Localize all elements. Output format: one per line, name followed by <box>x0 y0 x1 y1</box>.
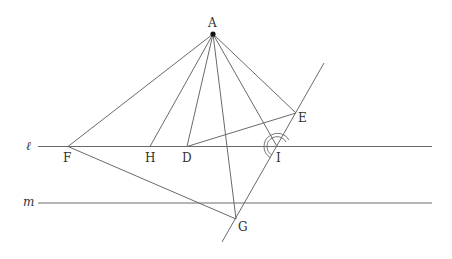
transversal-line <box>222 63 324 242</box>
label-H: H <box>145 151 155 165</box>
label-E: E <box>298 111 307 125</box>
label-line-l: ℓ <box>26 139 31 153</box>
segment-AI <box>213 34 277 147</box>
segment-AH <box>150 34 213 147</box>
label-I: I <box>276 151 281 165</box>
segment-AE <box>213 34 296 113</box>
segment-AG <box>213 34 236 219</box>
label-G: G <box>238 220 248 234</box>
geometry-diagram: A F H D I E G ℓ m <box>0 0 452 259</box>
point-A <box>210 31 215 36</box>
label-D: D <box>182 151 192 165</box>
label-line-m: m <box>23 195 34 209</box>
label-F: F <box>63 151 71 165</box>
label-A: A <box>207 16 217 30</box>
